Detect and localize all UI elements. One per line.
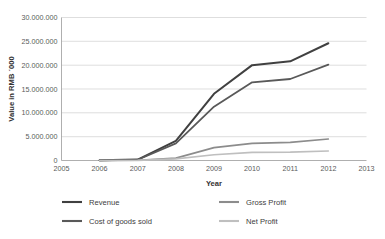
chart-canvas: 05.000.00010.000.00015.000.00020.000.000… bbox=[0, 0, 385, 239]
y-axis-tick-label: 5.000.000 bbox=[26, 132, 58, 141]
x-axis-tick-label: 2008 bbox=[168, 164, 184, 173]
x-axis-tick-labels: 200520062007200820092010201120122013 bbox=[54, 164, 375, 173]
y-axis-tick-label: 25.000.000 bbox=[22, 37, 58, 46]
y-axis-tick-label: 15.000.000 bbox=[22, 85, 58, 94]
legend-label-cost-of-goods-sold: Cost of goods sold bbox=[89, 217, 152, 226]
y-axis-title: Value in RMB ´000 bbox=[7, 56, 16, 121]
x-axis-tick-label: 2011 bbox=[283, 164, 298, 173]
line-chart-figure: 05.000.00010.000.00015.000.00020.000.000… bbox=[0, 0, 385, 239]
legend-label-revenue: Revenue bbox=[89, 198, 119, 207]
x-axis-tick-label: 2007 bbox=[130, 164, 146, 173]
x-axis-tick-label: 2006 bbox=[92, 164, 108, 173]
x-axis-tick-label: 2010 bbox=[244, 164, 260, 173]
x-axis-tick-label: 2012 bbox=[320, 164, 336, 173]
x-axis-tick-label: 2013 bbox=[359, 164, 375, 173]
y-axis-tick-label: 20.000.000 bbox=[22, 61, 58, 70]
legend-label-net-profit: Net Profit bbox=[246, 217, 279, 226]
x-axis-title: Year bbox=[206, 179, 222, 188]
legend-label-gross-profit: Gross Profit bbox=[246, 198, 287, 207]
y-axis-tick-label: 10.000.000 bbox=[22, 108, 58, 117]
x-axis-tick-label: 2009 bbox=[206, 164, 222, 173]
y-axis-tick-label: 30.000.000 bbox=[22, 13, 58, 22]
x-axis-tick-label: 2005 bbox=[54, 164, 70, 173]
